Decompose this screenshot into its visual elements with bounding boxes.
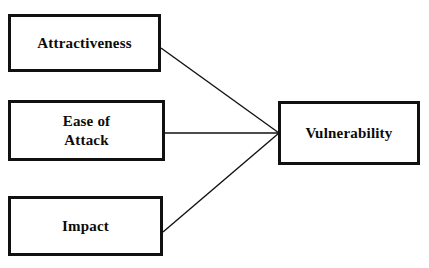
node-ease-of-attack-label: Ease of Attack [59,112,115,150]
node-ease-of-attack: Ease of Attack [8,100,165,161]
connector-impact-to-vulnerability [163,133,279,232]
node-vulnerability: Vulnerability [278,101,420,165]
node-attractiveness-label: Attractiveness [33,34,135,53]
node-impact: Impact [8,196,163,256]
node-vulnerability-label: Vulnerability [301,124,396,143]
diagram-canvas: Attractiveness Ease of Attack Impact Vul… [0,0,429,268]
connector-attractiveness-to-vulnerability [161,48,279,133]
node-impact-label: Impact [58,217,113,236]
node-attractiveness: Attractiveness [8,14,161,72]
